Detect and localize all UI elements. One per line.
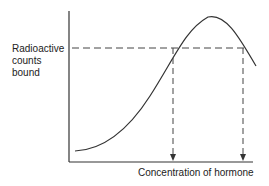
arrow-down-icon <box>170 154 176 161</box>
y-axis-label-line: bound <box>12 67 64 79</box>
y-axis-label: Radioactive counts bound <box>12 43 64 79</box>
arrow-down-icon <box>240 154 246 161</box>
chart-canvas <box>0 0 269 186</box>
x-axis-label: Concentration of hormone <box>138 167 254 178</box>
binding-curve <box>75 17 256 151</box>
y-axis-label-line: Radioactive <box>12 43 64 55</box>
y-axis-label-line: counts <box>12 55 64 67</box>
